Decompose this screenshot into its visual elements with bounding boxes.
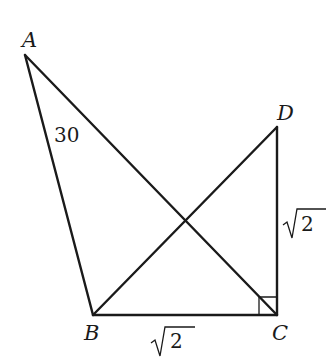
- angle-a-label: 30: [54, 123, 79, 147]
- vertex-label-c: C: [272, 321, 288, 345]
- vertex-label-a: A: [20, 28, 37, 52]
- side-bc-label: 2: [151, 327, 195, 356]
- side-bc-value: 2: [170, 329, 183, 353]
- vertex-label-b: B: [83, 321, 99, 345]
- vertex-label-d: D: [276, 101, 294, 125]
- side-cd-label: 2: [283, 209, 326, 238]
- segment-ac: [25, 55, 277, 315]
- geometry-diagram: A B C D 30 2 2: [0, 0, 336, 364]
- side-cd-value: 2: [301, 212, 314, 236]
- segment-ab: [25, 55, 93, 315]
